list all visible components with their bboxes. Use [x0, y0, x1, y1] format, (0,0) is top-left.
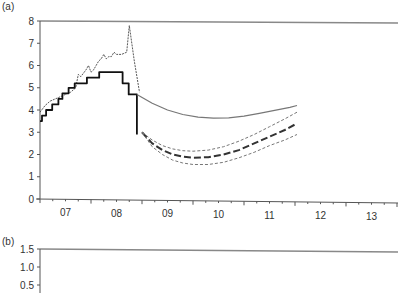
y-tick-label: 1.5: [20, 244, 34, 255]
y-tick-label: 6: [28, 60, 34, 71]
top-frame-line: [40, 21, 398, 23]
central-forecast: [142, 123, 297, 157]
x-tick-label: 08: [111, 208, 123, 219]
y-tick-label: 3: [28, 127, 34, 138]
noisy-dashed-series: [40, 26, 140, 113]
chart-panel-a: 01234567807080910111213: [0, 0, 398, 232]
y-tick-label: 4: [28, 105, 34, 116]
y-tick-label: 7: [28, 38, 34, 49]
x-tick-label: 10: [213, 209, 225, 220]
y-tick-label: 1.0: [20, 262, 34, 273]
x-tick-label: 07: [60, 207, 72, 218]
solid-gray-forecast: [137, 94, 297, 118]
axes: 1.51.00.5: [20, 244, 398, 293]
x-axis: [36, 199, 398, 203]
y-tick-label: 8: [28, 16, 34, 27]
x-tick-label: 13: [366, 211, 378, 222]
chart-panel-b: 1.51.00.5: [0, 240, 398, 293]
x-tick-label: 11: [264, 210, 275, 221]
y-tick-label: 1: [28, 171, 34, 182]
y-tick-label: 5: [28, 82, 34, 93]
lower-band: [142, 132, 297, 164]
y-tick-label: 2: [28, 149, 34, 160]
series-group: [40, 26, 297, 165]
top-frame-line: [40, 249, 398, 252]
y-tick-label: 0: [28, 194, 34, 205]
x-tick-label: 12: [315, 210, 327, 221]
y-tick-label: 0.5: [20, 280, 34, 291]
step-series: [40, 72, 137, 134]
x-tick-label: 09: [162, 208, 174, 219]
